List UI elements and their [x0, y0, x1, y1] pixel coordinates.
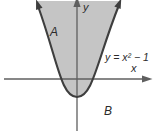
figure-canvas: y x A B y = x² − 1 — [0, 0, 163, 140]
parabola-region-diagram: y x A B y = x² − 1 — [0, 0, 163, 140]
region-a-label: A — [49, 25, 58, 39]
x-axis-label: x — [130, 62, 137, 74]
region-b-label: B — [104, 104, 112, 118]
curve-equation-label: y = x² − 1 — [104, 51, 149, 63]
